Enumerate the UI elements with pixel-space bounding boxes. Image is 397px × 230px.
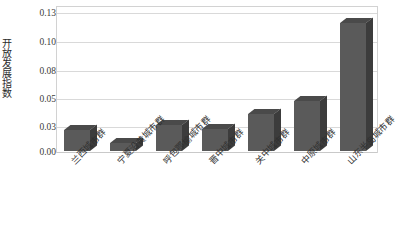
- y-axis-tick-label: 0.03: [10, 122, 56, 132]
- y-axis-tick-label: 0.08: [10, 66, 56, 76]
- y-axis-tick-label: 0.13: [10, 8, 56, 18]
- x-axis-labels: 兰西城市群宁夏沿黄城市群呼包鄂榆城市群晋中城市群关中城市群中原城市群山东半岛城市…: [0, 153, 384, 230]
- bar: [340, 23, 366, 151]
- y-axis-tick-label: 0.05: [10, 94, 56, 104]
- bar-front-face: [340, 23, 366, 151]
- y-axis-tick-label: 0.10: [10, 37, 56, 47]
